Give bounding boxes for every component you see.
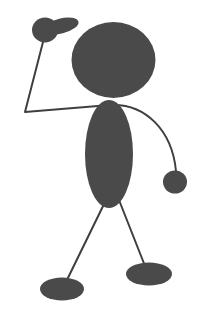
left-hand-palm (32, 18, 58, 43)
right-hand (163, 171, 187, 194)
drawing-canvas (0, 0, 210, 327)
left-foot (40, 278, 84, 301)
head (72, 22, 156, 98)
torso (85, 100, 133, 208)
stick-figure-illustration (0, 0, 210, 327)
right-foot (126, 263, 172, 286)
